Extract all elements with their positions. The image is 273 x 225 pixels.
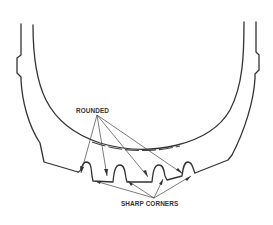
sharp-corners-label: SHARP CORNERS: [121, 200, 179, 207]
sharp-corners-leaders: [95, 176, 191, 198]
inner-casing-curve: [33, 22, 244, 149]
rounded-label: ROUNDED: [76, 107, 109, 114]
rounded-leaders: [80, 115, 183, 177]
outer-left-sidewall: [17, 24, 78, 172]
tire-cross-section-diagram: ROUNDED SHARP CORNERS: [0, 0, 273, 225]
outer-right-sidewall: [195, 22, 259, 173]
tread-profile: [78, 162, 195, 182]
